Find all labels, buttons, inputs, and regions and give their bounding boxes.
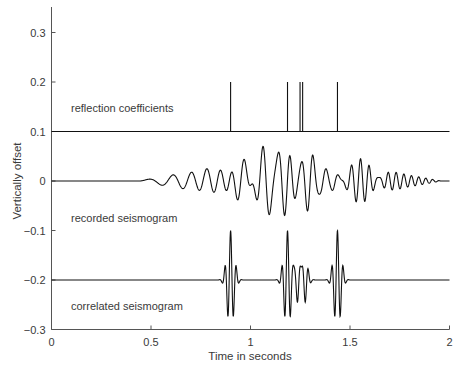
y-axis-label: Vertically offset xyxy=(11,142,23,220)
y-ticks: 0.30.20.10−0.1−0.2−0.3 xyxy=(24,27,56,336)
y-tick-label: 0.3 xyxy=(30,27,45,39)
y-tick-label: −0.3 xyxy=(24,324,46,336)
annotation-correlated-seismogram: correlated seismogram xyxy=(71,300,183,312)
x-tick-label: 0 xyxy=(48,336,54,348)
x-tick-label: 1 xyxy=(247,336,253,348)
x-tick-label: 1.5 xyxy=(342,336,357,348)
annotation-recorded-seismogram: recorded seismogram xyxy=(71,212,177,224)
x-ticks: 00.511.52 xyxy=(48,326,452,349)
annotation-reflection-coefficients: reflection coefficients xyxy=(71,102,174,114)
x-tick-label: 2 xyxy=(446,336,452,348)
series-group xyxy=(52,82,450,316)
x-tick-label: 0.5 xyxy=(143,336,158,348)
recorded-seismogram-line xyxy=(52,146,450,215)
y-tick-label: 0.1 xyxy=(30,126,45,138)
x-axis-label: Time in seconds xyxy=(208,350,292,362)
axes xyxy=(52,7,450,330)
y-tick-label: 0.2 xyxy=(30,76,45,88)
y-tick-label: −0.2 xyxy=(24,274,46,286)
y-tick-label: 0 xyxy=(39,175,45,187)
seismogram-chart: 0.30.20.10−0.1−0.2−0.3 00.511.52 reflect… xyxy=(0,0,461,376)
y-tick-label: −0.1 xyxy=(24,225,46,237)
